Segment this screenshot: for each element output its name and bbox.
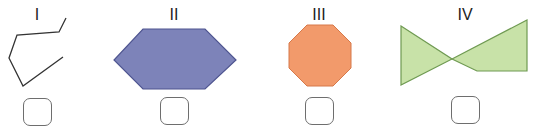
answer-box-ii[interactable] (160, 97, 189, 125)
answer-box-iii[interactable] (305, 97, 334, 125)
answer-box-iv[interactable] (451, 96, 480, 124)
shape-ii-hexagon (114, 29, 236, 89)
answer-box-i[interactable] (23, 98, 52, 126)
shape-iv-bow-tie-left (401, 26, 452, 85)
shape-i-open-polyline (9, 18, 66, 86)
figure-label-ii: II (170, 6, 179, 24)
figure-label-iii: III (312, 6, 325, 24)
figure-label-i: I (35, 6, 39, 24)
figure-label-iv: IV (457, 6, 472, 24)
shape-iv-bow-tie-right (452, 20, 527, 71)
shape-iii-octagon (289, 25, 351, 86)
